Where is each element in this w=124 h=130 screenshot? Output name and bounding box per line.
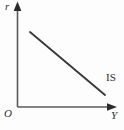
is-curve-label: IS (106, 72, 116, 83)
is-curve-diagram: r O Y IS (0, 0, 124, 130)
diagram-canvas (0, 0, 124, 130)
origin-label: O (4, 108, 12, 119)
y-axis-label: r (5, 1, 9, 12)
is-curve-line (30, 32, 105, 95)
x-axis-label: Y (111, 110, 117, 121)
y-axis-arrow-icon (14, 2, 22, 12)
